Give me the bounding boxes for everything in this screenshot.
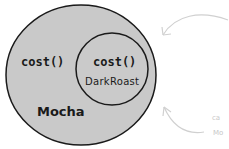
inner-cost-method: cost() [93, 55, 136, 69]
side-text-1: ca [212, 114, 220, 122]
inner-darkroast-circle [76, 33, 148, 105]
top-arrow-icon [163, 15, 228, 35]
diagram-canvas [0, 0, 229, 149]
outer-cost-method: cost() [21, 55, 64, 69]
inner-class-name: DarkRoast [85, 76, 139, 87]
side-text-2: Mo [213, 129, 223, 137]
outer-class-name: Mocha [37, 104, 85, 119]
